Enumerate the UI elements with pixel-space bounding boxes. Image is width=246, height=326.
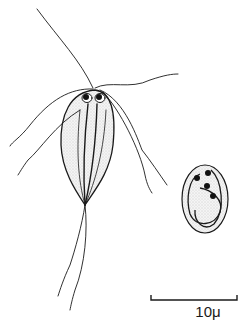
scale-bar-label: 10μ (178, 303, 238, 320)
scale-bar (151, 295, 237, 300)
illustration (0, 0, 246, 326)
trophozoite (10, 9, 178, 310)
cyst (182, 165, 228, 233)
